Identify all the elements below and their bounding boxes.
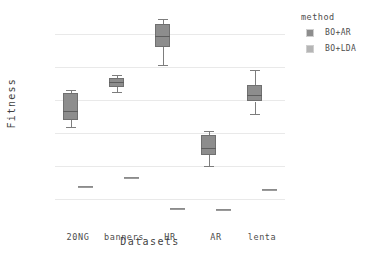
upper-whisker-cap [158, 19, 168, 20]
lower-whisker-cap [250, 114, 260, 115]
upper-whisker-cap [204, 131, 214, 132]
legend-entry-label: BO+LDA [325, 44, 356, 53]
legend-entry-label: BO+AR [325, 28, 351, 37]
lower-whisker [71, 120, 72, 127]
lower-whisker [209, 155, 210, 166]
lower-whisker-cap [158, 65, 168, 66]
gridline [55, 67, 285, 68]
plot-area: 1.41.210.80.60.4 20NGbannersHRARlenta [55, 14, 285, 212]
legend-title: method [300, 12, 386, 22]
gridline [55, 199, 285, 200]
box-rect [247, 85, 262, 102]
gridline [55, 34, 285, 35]
upper-whisker-cap [66, 90, 76, 91]
legend-entry[interactable]: BO+AR [300, 28, 386, 37]
legend-swatch-icon [306, 45, 314, 53]
lower-whisker-cap [112, 92, 122, 93]
box-rect [201, 135, 216, 155]
y-axis-title: Fitness [6, 78, 17, 129]
lower-whisker [255, 102, 256, 114]
median-line [247, 95, 262, 96]
lower-whisker-cap [204, 166, 214, 167]
upper-whisker [255, 70, 256, 85]
flat-box-marker [78, 186, 93, 188]
upper-whisker-cap [250, 70, 260, 71]
lower-whisker [163, 47, 164, 65]
median-line [155, 36, 170, 37]
gridline [55, 133, 285, 134]
median-line [109, 82, 124, 83]
legend: method BO+ARBO+LDA [300, 12, 386, 60]
flat-box-marker [216, 209, 231, 211]
flat-box-marker [170, 208, 185, 210]
flat-box-marker [262, 189, 277, 191]
legend-swatch-icon [306, 29, 314, 37]
median-line [63, 111, 78, 112]
legend-entries: BO+ARBO+LDA [300, 28, 386, 53]
gridline [55, 166, 285, 167]
box-rect [63, 93, 78, 119]
upper-whisker-cap [112, 75, 122, 76]
x-axis-title: Datasets [0, 236, 300, 247]
lower-whisker-cap [66, 127, 76, 128]
legend-entry[interactable]: BO+LDA [300, 44, 386, 53]
flat-box-marker [124, 177, 139, 179]
median-line [201, 148, 216, 149]
box-plot-figure: Fitness 1.41.210.80.60.4 20NGbannersHRAR… [0, 0, 387, 257]
